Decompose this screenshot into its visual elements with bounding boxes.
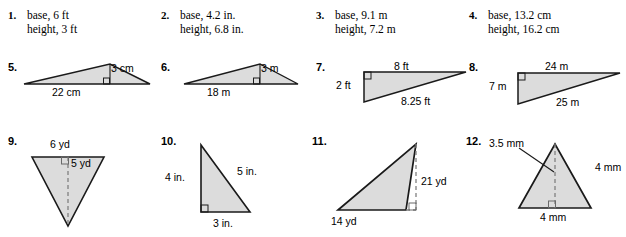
- problem-12-height-label: 3.5 mm: [489, 138, 524, 149]
- problem-number-8: 8.: [469, 62, 478, 73]
- problem-4-line-1: base, 13.2 cm: [488, 8, 551, 22]
- problem-number-11: 11.: [312, 136, 327, 147]
- problem-8-hypotenuse-label: 25 m: [556, 97, 579, 108]
- problem-5-height-label: 3 cm: [111, 63, 134, 74]
- problem-7-left-label: 2 ft: [336, 80, 351, 91]
- problem-number-3: 3.: [316, 10, 324, 21]
- worksheet-page: 1. base, 6 ft height, 3 ft 2. base, 4.2 …: [0, 0, 626, 237]
- problem-6-base-label: 18 m: [207, 87, 230, 98]
- problem-2-line-1: base, 4.2 in.: [180, 8, 235, 22]
- problem-10-left-label: 4 in.: [165, 172, 185, 183]
- problem-number-10: 10.: [161, 136, 176, 147]
- problem-number-6: 6.: [161, 62, 170, 73]
- problem-1-line-2: height, 3 ft: [27, 22, 77, 36]
- triangle-shape: [338, 144, 416, 210]
- triangle-shape: [184, 64, 298, 84]
- problem-11-height-label: 21 yd: [421, 176, 447, 187]
- problem-12-side-label: 4 mm: [595, 162, 621, 173]
- problem-7-hypotenuse-label: 8.25 ft: [401, 96, 430, 107]
- problem-10-hypotenuse-label: 5 in.: [237, 166, 257, 177]
- problem-8-top-label: 24 m: [545, 61, 568, 72]
- problem-1-line-1: base, 6 ft: [27, 8, 69, 22]
- problem-9-base-label: 6 yd: [50, 139, 70, 150]
- problem-number-9: 9.: [8, 136, 17, 147]
- problem-5-base-label: 22 cm: [52, 87, 81, 98]
- right-angle-marker-icon: [409, 203, 416, 210]
- figure-problem-6: [182, 60, 302, 90]
- problem-number-12: 12.: [466, 136, 481, 147]
- figure-problem-10: [198, 142, 258, 216]
- problem-number-2: 2.: [161, 10, 169, 21]
- problem-7-top-label: 8 ft: [394, 61, 409, 72]
- problem-number-5: 5.: [8, 62, 17, 73]
- figure-problem-9: [30, 154, 110, 230]
- problem-3-line-1: base, 9.1 m: [335, 8, 387, 22]
- problem-number-1: 1.: [8, 10, 16, 21]
- problem-12-base-label: 4 mm: [540, 212, 566, 223]
- problem-3-line-2: height, 7.2 m: [335, 22, 396, 36]
- problem-11-base-label: 14 yd: [331, 216, 357, 227]
- problem-4-line-2: height, 16.2 cm: [488, 22, 560, 36]
- problem-number-7: 7.: [316, 62, 325, 73]
- problem-8-left-label: 7 m: [489, 81, 507, 92]
- problem-6-height-label: 3 m: [261, 63, 279, 74]
- figure-problem-12: [505, 140, 615, 216]
- problem-2-line-2: height, 6.8 in.: [180, 22, 244, 36]
- problem-9-height-label: 5 yd: [71, 158, 91, 169]
- triangle-shape: [201, 145, 250, 212]
- problem-number-4: 4.: [469, 10, 477, 21]
- problem-10-base-label: 3 in.: [213, 218, 233, 229]
